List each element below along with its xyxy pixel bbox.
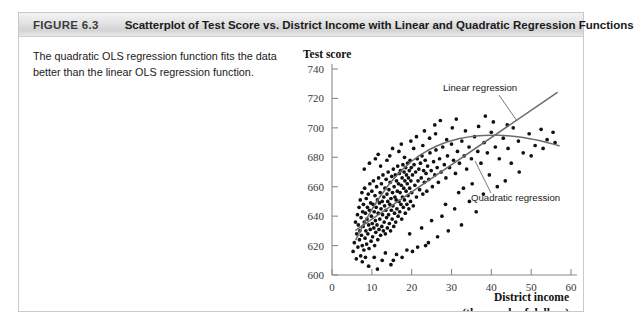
scatter-point	[445, 138, 449, 142]
scatter-point	[503, 179, 507, 183]
scatter-point	[527, 132, 531, 136]
scatter-point	[424, 244, 428, 248]
x-tick-label: 0	[329, 281, 335, 293]
scatter-point	[363, 236, 367, 240]
scatter-point	[393, 211, 397, 215]
scatter-point	[400, 255, 404, 259]
scatter-point	[372, 226, 376, 230]
scatter-point	[428, 136, 432, 140]
axis-lines-group	[332, 64, 577, 275]
scatter-point	[529, 154, 533, 158]
scatterplot-svg: Test score 600620640660680700720740 0102…	[285, 43, 583, 311]
scatter-point	[359, 254, 363, 258]
scatter-point	[389, 263, 393, 267]
scatter-point	[375, 185, 379, 189]
scatter-point	[422, 169, 426, 173]
figure-number-label: FIGURE 6.3	[33, 19, 99, 31]
scatter-point	[462, 186, 466, 190]
scatter-point	[360, 233, 364, 237]
scatter-point	[419, 176, 423, 180]
scatter-point	[358, 238, 362, 242]
scatter-point	[380, 258, 384, 262]
scatter-point	[411, 173, 415, 177]
linear-regression-leader-line	[499, 95, 517, 121]
scatter-point	[388, 154, 392, 158]
scatter-point	[405, 248, 409, 252]
quadratic-regression-label: Quadratic regression	[471, 192, 560, 203]
y-tick-group: 600620640660680700720740	[308, 63, 339, 281]
scatter-point	[389, 229, 393, 233]
y-tick-label: 660	[308, 181, 325, 193]
scatter-point	[362, 203, 366, 207]
scatter-point	[378, 217, 382, 221]
scatter-point	[368, 228, 372, 232]
scatter-point	[373, 244, 377, 248]
scatter-point	[545, 138, 549, 142]
scatter-point	[408, 186, 412, 190]
scatter-point	[541, 147, 545, 151]
scatter-point	[421, 144, 425, 148]
scatter-point	[521, 151, 525, 155]
scatter-point	[423, 129, 427, 133]
scatter-point	[438, 157, 442, 161]
scatter-point	[450, 126, 454, 130]
scatter-point	[390, 175, 394, 179]
scatter-point	[354, 257, 358, 261]
scatter-point	[409, 139, 413, 143]
scatter-point	[408, 232, 412, 236]
y-tick-label: 740	[308, 63, 325, 75]
scatter-point	[489, 130, 493, 134]
scatter-point	[367, 247, 371, 251]
y-tick-label: 620	[308, 240, 325, 252]
scatter-point	[387, 213, 391, 217]
scatter-point	[460, 139, 464, 143]
scatter-point	[407, 176, 411, 180]
scatter-point	[470, 157, 474, 161]
scatter-point	[376, 152, 380, 156]
scatter-point	[398, 191, 402, 195]
scatter-point	[380, 225, 384, 229]
scatter-point	[497, 157, 501, 161]
scatter-point	[403, 211, 407, 215]
scatter-point	[409, 166, 413, 170]
scatter-point	[384, 232, 388, 236]
x-tick-group: 0102030405060	[329, 269, 577, 293]
scatter-point	[374, 219, 378, 223]
scatter-point	[367, 264, 371, 268]
scatter-point	[487, 173, 491, 177]
scatter-point	[467, 145, 471, 149]
scatter-point	[479, 161, 483, 165]
scatter-point	[364, 255, 368, 259]
scatter-point	[372, 179, 376, 183]
scatter-point	[419, 161, 423, 165]
scatter-point	[416, 245, 420, 249]
scatter-point	[394, 220, 398, 224]
scatter-point	[450, 142, 454, 146]
scatter-point	[354, 220, 358, 224]
scatter-point	[388, 222, 392, 226]
scatter-point	[363, 186, 367, 190]
scatter-point	[362, 167, 366, 171]
scatter-point	[385, 158, 389, 162]
scatter-point	[385, 192, 389, 196]
scatter-point	[352, 241, 356, 245]
scatter-point	[383, 204, 387, 208]
scatter-point	[470, 182, 474, 186]
figure-header-band: FIGURE 6.3 Scatterplot of Test Score vs.…	[19, 13, 583, 37]
scatter-point	[377, 176, 381, 180]
x-axis-title: District income	[494, 291, 569, 303]
scatter-point	[414, 170, 418, 174]
scatter-point	[509, 161, 513, 165]
scatter-point	[396, 164, 400, 168]
scatter-point	[453, 207, 457, 211]
x-tick-label: 30	[446, 281, 458, 293]
scatter-point	[358, 198, 362, 202]
figure-caption: The quadratic OLS regression function fi…	[33, 49, 285, 80]
scatter-point	[456, 150, 460, 154]
scatter-point	[425, 189, 429, 193]
scatter-point	[493, 145, 497, 149]
x-axis-subtitle: (thousands of dollars)	[462, 307, 569, 311]
scatter-point	[390, 208, 394, 212]
scatter-point	[360, 244, 364, 248]
scatter-point	[395, 253, 399, 257]
